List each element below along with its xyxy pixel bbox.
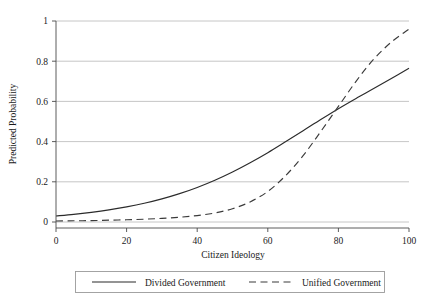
x-tick-label-0: 0 <box>54 236 59 246</box>
predicted-probability-line-chart: 00.20.40.60.81 020406080100 Citizen Ideo… <box>0 0 429 301</box>
y-tick-label-0: 0 <box>43 217 48 227</box>
y-axis-title: Predicted Probability <box>8 84 18 165</box>
x-tick-label-1: 20 <box>122 236 132 246</box>
chart-figure: 00.20.40.60.81 020406080100 Citizen Ideo… <box>0 0 429 301</box>
y-tick-label-3: 0.6 <box>36 97 48 107</box>
legend-label-divided-government: Divided Government <box>145 278 226 288</box>
x-axis-title: Citizen Ideology <box>201 250 265 260</box>
y-tick-label-4: 0.8 <box>36 57 48 67</box>
x-tick-label-3: 60 <box>263 236 273 246</box>
y-tick-label-5: 1 <box>43 16 48 26</box>
x-tick-label-4: 80 <box>334 236 344 246</box>
x-tick-label-2: 40 <box>192 236 202 246</box>
y-tick-label-1: 0.2 <box>36 177 48 187</box>
y-tick-label-2: 0.4 <box>36 137 48 147</box>
x-tick-label-5: 100 <box>402 236 417 246</box>
legend-label-unified-government: Unified Government <box>302 278 381 288</box>
